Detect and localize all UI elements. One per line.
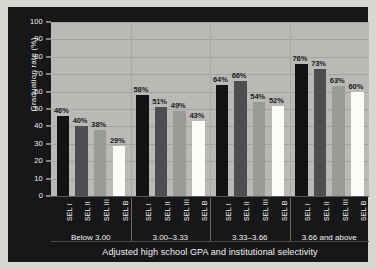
bar — [136, 95, 149, 196]
y-tick-label: 10 — [34, 175, 43, 183]
bar-value-label: 66% — [232, 72, 247, 80]
x-tick-label: SEL II — [84, 201, 91, 221]
bar — [192, 121, 205, 196]
y-tick-label: 100 — [30, 18, 43, 26]
y-tick-label: 40 — [34, 123, 43, 131]
y-tick-label: 70 — [34, 70, 43, 78]
x-tick-label: SEL III — [103, 199, 110, 221]
x-tick-label: SEL B — [360, 200, 367, 221]
group-label-separator — [131, 198, 132, 242]
bar — [216, 85, 229, 196]
x-tick-label: SEL III — [183, 199, 190, 221]
bar-value-label: 29% — [110, 137, 125, 145]
bar — [75, 126, 88, 196]
x-tick-label: SEL III — [342, 199, 349, 221]
y-tick-label: 50 — [34, 105, 43, 113]
x-tick-label: SEL II — [243, 201, 250, 221]
y-tick-label: 60 — [34, 88, 43, 96]
bar — [155, 107, 168, 196]
bar — [173, 111, 186, 196]
bar-value-label: 46% — [54, 107, 69, 115]
group-separator — [210, 22, 211, 196]
bar — [113, 146, 126, 196]
bar-value-label: 38% — [91, 121, 106, 129]
bar-value-label: 43% — [190, 112, 205, 120]
bar-value-label: 54% — [250, 93, 265, 101]
bar — [57, 116, 70, 196]
x-tick-label: SEL III — [262, 199, 269, 221]
bar-value-label: 64% — [213, 76, 228, 84]
bar-value-label: 63% — [330, 77, 345, 85]
y-tick-label: 20 — [34, 157, 43, 165]
bar-value-label: 49% — [171, 102, 186, 110]
bar-value-label: 52% — [269, 97, 284, 105]
x-tick-label: SEL I — [225, 203, 232, 221]
plot-area: 46%40%38%29%58%51%49%43%64%66%54%52%76%7… — [51, 22, 369, 196]
bar — [94, 130, 107, 196]
chart-panel: Graduation rate (%) 01020304050607080901… — [8, 7, 368, 262]
y-tick-label: 0 — [39, 192, 43, 200]
x-tick-label: SEL I — [66, 203, 73, 221]
x-tick-label: SEL I — [145, 203, 152, 221]
group-separator — [131, 22, 132, 196]
x-tick-label: SEL B — [122, 200, 129, 221]
y-tick-label: 80 — [34, 53, 43, 61]
bar — [253, 102, 266, 196]
y-tick-label: 30 — [34, 140, 43, 148]
y-axis: Graduation rate (%) 01020304050607080901… — [16, 22, 51, 196]
bar — [314, 69, 327, 196]
x-tick-label: SEL II — [323, 201, 330, 221]
bar-value-label: 60% — [349, 83, 364, 91]
bar-value-label: 73% — [311, 60, 326, 68]
bar — [295, 64, 308, 196]
group-label-separator — [210, 198, 211, 242]
bar — [351, 92, 364, 196]
bar-value-label: 58% — [134, 86, 149, 94]
x-axis-baseline — [51, 196, 369, 197]
bar-value-label: 76% — [293, 55, 308, 63]
group-separator — [290, 22, 291, 196]
x-tick-label: SEL II — [164, 201, 171, 221]
chart-screenshot: Graduation rate (%) 01020304050607080901… — [0, 0, 376, 269]
y-tick-label: 90 — [34, 36, 43, 44]
bar — [332, 86, 345, 196]
group-label-separator — [290, 198, 291, 242]
x-tick-label: SEL B — [281, 200, 288, 221]
bar-value-label: 51% — [152, 98, 167, 106]
bar-value-label: 40% — [73, 117, 88, 125]
bar — [234, 81, 247, 196]
x-axis-rule — [51, 241, 369, 242]
x-tick-label: SEL I — [304, 203, 311, 221]
x-tick-label: SEL B — [201, 200, 208, 221]
x-axis-title: Adjusted high school GPA and institution… — [51, 247, 369, 257]
bar — [272, 106, 285, 196]
